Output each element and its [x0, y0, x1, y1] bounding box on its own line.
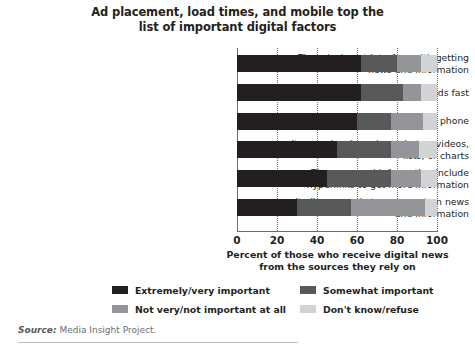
legend-swatch-icon	[300, 286, 316, 294]
legend-swatch-icon	[300, 305, 316, 313]
source-label: Source:	[18, 325, 57, 335]
bar-row	[237, 55, 437, 72]
x-axis-title-line-1: Percent of those who receive digital new…	[205, 249, 470, 261]
gridline-100	[437, 48, 438, 231]
legend-item[interactable]: Extremely/very important	[112, 283, 270, 297]
bar-segment	[397, 55, 421, 72]
source-note: Source: Media Insight Project.	[18, 325, 156, 335]
bar-segment	[403, 84, 421, 101]
x-tick-label: 60	[337, 234, 377, 246]
bar-segment	[351, 199, 425, 216]
x-tick-label: 40	[297, 234, 337, 246]
x-tick-label: 20	[257, 234, 297, 246]
source-text: Media Insight Project.	[57, 325, 157, 335]
bar-segment	[327, 170, 391, 187]
bar-segment	[423, 113, 437, 130]
bar-segment	[237, 84, 361, 101]
title-line-1: Ad placement, load times, and mobile top…	[40, 5, 435, 20]
bar-segment	[337, 141, 391, 158]
bar-segment	[237, 170, 327, 187]
bar-row	[237, 84, 437, 101]
bar-segment	[391, 113, 423, 130]
x-axis-title: Percent of those who receive digital new…	[205, 249, 470, 272]
bar-segment	[391, 141, 419, 158]
page-title: Ad placement, load times, and mobile top…	[40, 5, 435, 35]
legend-item[interactable]: Not very/not important at all	[112, 302, 286, 316]
title-line-2: list of important digital factors	[40, 20, 435, 35]
x-tick-label: 0	[217, 234, 257, 246]
bar-segment	[361, 84, 403, 101]
chart-figure: Ad placement, load times, and mobile top…	[0, 0, 475, 350]
legend-label: Somewhat important	[323, 285, 434, 296]
bar-segment	[425, 199, 437, 216]
legend-label: Not very/not important at all	[135, 304, 286, 315]
legend-label: Extremely/very important	[135, 285, 270, 296]
bar-row	[237, 141, 437, 158]
bar-segment	[237, 199, 297, 216]
legend-item[interactable]: Somewhat important	[300, 283, 434, 297]
x-tick-label: 100	[417, 234, 457, 246]
chart-legend: Extremely/very importantSomewhat importa…	[112, 283, 462, 317]
bar-segment	[421, 84, 437, 101]
bar-segment	[237, 55, 361, 72]
bar-row	[237, 170, 437, 187]
bar-row	[237, 199, 437, 216]
bar-segment	[421, 170, 437, 187]
x-tick-label: 80	[377, 234, 417, 246]
x-axis-title-line-2: from the sources they rely on	[205, 261, 470, 273]
bar-segment	[361, 55, 397, 72]
legend-label: Don't know/refuse	[323, 304, 419, 315]
bar-segment	[237, 141, 337, 158]
bar-segment	[421, 55, 437, 72]
legend-item[interactable]: Don't know/refuse	[300, 302, 419, 316]
bar-row	[237, 113, 437, 130]
bar-segment	[297, 199, 351, 216]
x-axis-line	[237, 231, 438, 232]
bar-segment	[419, 141, 437, 158]
footer-divider	[18, 342, 298, 343]
legend-swatch-icon	[112, 286, 128, 294]
bar-segment	[391, 170, 421, 187]
plot-area	[237, 48, 437, 231]
bar-segment	[237, 113, 357, 130]
legend-swatch-icon	[112, 305, 128, 313]
bar-segment	[357, 113, 391, 130]
